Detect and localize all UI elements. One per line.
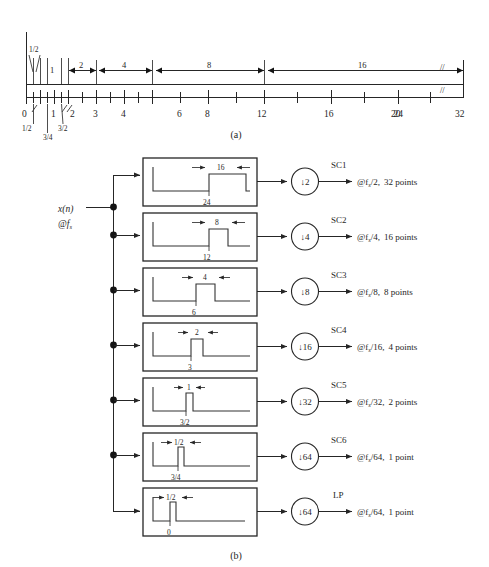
span-label-half: 1/2 [29, 45, 39, 54]
tick-label-4: 4 [121, 109, 126, 119]
panel-a-caption: (a) [230, 129, 241, 141]
decimator-label-2: ↓4 [301, 232, 311, 242]
band-dim-2: 8 [192, 218, 245, 227]
filter-box-7 [143, 488, 257, 536]
break-symbol-bottom: // [440, 85, 445, 95]
feed-row-1 [114, 175, 141, 207]
filter-response-5 [153, 387, 250, 411]
filter-row-3: 4 6 ↓8 SC3 @fs/8,8 points [110, 268, 413, 317]
filter-row-7: 1/2 0 ↓64 LP @fs/64,1 point [114, 488, 415, 537]
band-dim-1: 16 [192, 163, 250, 172]
filter-box-6 [143, 433, 257, 481]
rate-label-4: @fs/16,4 points [357, 342, 418, 353]
span-half-leaders [29, 55, 41, 84]
band-bottom-label-5: 3/2 [180, 418, 190, 427]
band-bottom-label-2: 12 [203, 253, 211, 262]
band-dim-5: 1 [174, 383, 205, 392]
span-label-1: 1 [50, 65, 54, 75]
input-signal-label: x(n) @fs [57, 204, 113, 230]
frac-label-half: 1/2 [22, 124, 32, 133]
output-label-4: SC4 [331, 325, 347, 335]
band-bottom-label-3: 6 [192, 308, 196, 317]
band-bottom-label-1: 24 [203, 198, 211, 207]
filter-box-5 [143, 378, 257, 426]
rate-label-5: @fs/32,2 points [357, 397, 418, 408]
filter-row-6: 1/2 3/4 ↓64 SC6 @fs/64,1 point [110, 433, 414, 482]
filter-row-5: 1 3/2 ↓32 SC5 @fs/32,2 points [110, 378, 418, 427]
filter-row-1: 16 24 ↓2 SC1 @fs/2,32 points [110, 158, 418, 210]
tick-label-32: 32 [455, 109, 465, 119]
filter-response-3 [153, 277, 250, 301]
span-label-4: 4 [122, 60, 127, 70]
tick-label-1: 1 [51, 109, 56, 119]
axis-fraction-labels: 1/2 3/4 3/2 [22, 104, 68, 142]
filter-box-3 [143, 268, 257, 316]
span-label-8: 8 [207, 60, 211, 70]
band-top-label-2: 8 [215, 218, 219, 227]
tick-label-2: 2 [70, 109, 75, 119]
panel-b-caption: (b) [230, 550, 242, 562]
filter-response-1 [153, 167, 250, 191]
band-top-label-7: 1/2 [166, 493, 176, 502]
band-top-label-1: 16 [217, 163, 225, 172]
band-dim-3: 4 [182, 273, 230, 282]
filter-response-2 [153, 222, 250, 246]
output-label-7: LP [333, 490, 344, 500]
rate-label-1: @fs/2,32 points [357, 177, 418, 188]
filter-response-6 [153, 442, 250, 466]
span-arrow-4: 4 [99, 60, 153, 84]
figure-root: // // [0, 0, 489, 567]
band-bottom-label-4: 3 [188, 363, 192, 372]
rate-label-3: @fs/8,8 points [357, 287, 413, 298]
decimator-label-3: ↓8 [301, 287, 311, 297]
filter-response-4 [153, 332, 250, 356]
panel-a-number-line: // // [0, 0, 489, 145]
rate-label-7: @fs/64,1 point [357, 507, 414, 518]
tick-label-0: 0 [22, 109, 27, 119]
feed-row-7 [114, 503, 141, 511]
rate-label-6: @fs/64,1 point [357, 452, 414, 463]
input-signal-text: x(n) [57, 204, 73, 215]
tick-label-16: 16 [324, 109, 334, 119]
band-dim-6: 1/2 [161, 438, 201, 447]
frac-label-three-quarters: 3/4 [43, 133, 53, 142]
output-label-6: SC6 [331, 435, 347, 445]
frac-label-three-halves: 3/2 [58, 124, 68, 133]
filter-box-1 [143, 158, 257, 206]
span-label-2: 2 [79, 60, 83, 70]
decimator-label-1: ↓2 [301, 177, 310, 187]
tap-node-1 [110, 204, 117, 211]
band-bottom-label-7: 0 [167, 528, 171, 537]
span-arrow-2: 2 [69, 60, 97, 84]
band-top-label-6: 1/2 [174, 438, 184, 447]
span-arrow-8: 8 [156, 60, 265, 84]
filter-row-4: 2 3 ↓16 SC4 @fs/16,4 points [110, 323, 418, 372]
decimator-label-6: ↓64 [298, 452, 312, 462]
band-dim-7: 1/2 [153, 493, 193, 502]
band-bottom-label-6: 3/4 [171, 473, 181, 482]
span-label-16: 16 [358, 60, 367, 70]
band-dim-4: 2 [178, 328, 218, 337]
span-arrow-16: 16 [268, 60, 463, 74]
decimator-label-7: ↓64 [298, 507, 312, 517]
filter-box-4 [143, 323, 257, 371]
tick-label-3: 3 [93, 109, 98, 119]
tick-label-24b: 24 [394, 109, 404, 119]
band-top-label-3: 4 [203, 273, 207, 282]
output-label-2: SC2 [331, 215, 347, 225]
output-label-3: SC3 [331, 270, 347, 280]
tick-label-12: 12 [257, 109, 267, 119]
output-label-1: SC1 [331, 160, 347, 170]
filter-box-2 [143, 213, 257, 261]
filter-row-2: 8 12 ↓4 SC2 @fs/4,16 points [110, 213, 418, 262]
output-label-5: SC5 [331, 380, 347, 390]
tick-label-8: 8 [205, 109, 210, 119]
band-top-label-5: 1 [187, 383, 191, 392]
rate-label-2: @fs/4,16 points [357, 232, 418, 243]
input-rate-text: @fs [58, 219, 72, 230]
band-top-label-4: 2 [195, 328, 199, 337]
tick-label-6: 6 [177, 109, 182, 119]
panel-b-block-diagram: x(n) @fs 16 24 [0, 155, 489, 567]
decimator-label-4: ↓16 [298, 342, 312, 352]
decimator-label-5: ↓32 [298, 397, 312, 407]
